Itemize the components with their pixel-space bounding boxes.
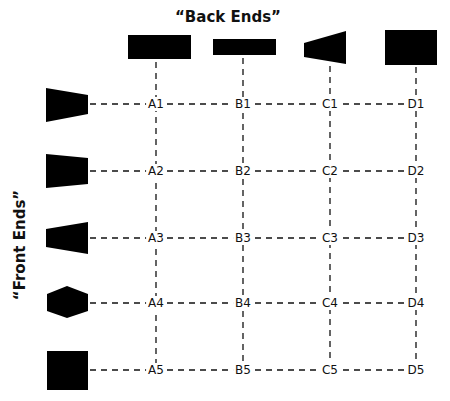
cell-label-b5: B5 xyxy=(233,363,253,377)
back-end-a-shape xyxy=(128,35,191,59)
cell-label-c4: C4 xyxy=(320,296,340,310)
front-ends-title: “Front Ends” xyxy=(11,190,29,300)
back-end-c-shape xyxy=(304,31,346,64)
cell-label-b3: B3 xyxy=(233,231,253,245)
combination-grid-diagram xyxy=(0,0,450,401)
front-end-4-shape xyxy=(47,286,88,318)
cell-label-c1: C1 xyxy=(320,97,340,111)
cell-label-b2: B2 xyxy=(233,164,253,178)
front-end-1-shape xyxy=(46,88,88,122)
cell-label-a2: A2 xyxy=(146,164,166,178)
front-end-2-shape xyxy=(46,154,88,188)
cell-label-d2: D2 xyxy=(406,164,427,178)
back-ends-title: “Back Ends” xyxy=(168,8,288,26)
cell-label-c3: C3 xyxy=(320,231,340,245)
cell-label-d5: D5 xyxy=(406,363,427,377)
cell-label-d1: D1 xyxy=(406,97,427,111)
cell-label-d3: D3 xyxy=(406,231,427,245)
cell-label-a4: A4 xyxy=(146,296,166,310)
front-end-3-shape xyxy=(46,222,88,254)
back-end-b-shape xyxy=(213,39,276,55)
cell-label-b4: B4 xyxy=(233,296,253,310)
cell-label-b1: B1 xyxy=(233,97,253,111)
cell-label-a5: A5 xyxy=(146,363,166,377)
cell-label-c2: C2 xyxy=(320,164,340,178)
cell-label-a1: A1 xyxy=(146,97,166,111)
cell-label-d4: D4 xyxy=(406,296,427,310)
cell-label-a3: A3 xyxy=(146,231,166,245)
cell-label-c5: C5 xyxy=(320,363,340,377)
front-end-5-shape xyxy=(47,351,88,390)
back-end-d-shape xyxy=(385,30,437,65)
